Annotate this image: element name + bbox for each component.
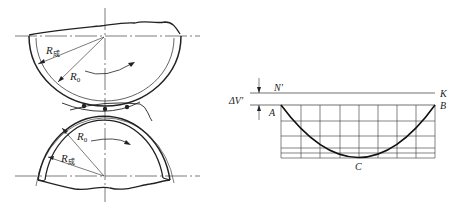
lower-inner-radius-label: R0 xyxy=(76,130,88,144)
lower-rotation-arrow xyxy=(91,139,128,143)
upper-inner-radius-label: R0 xyxy=(69,70,81,84)
rotation-arrowhead-icon xyxy=(124,140,131,145)
label-k: K xyxy=(439,88,448,99)
dimension-arrowhead-icon xyxy=(257,87,261,93)
diagram-canvas: R成 R0 R0 R成 xyxy=(0,0,452,210)
contact-point xyxy=(125,105,129,109)
upper-outer-radius-label: R成 xyxy=(45,44,60,58)
lower-roll-thick-arc xyxy=(38,116,170,180)
contact-point xyxy=(82,104,86,108)
deviation-curve xyxy=(281,105,435,158)
label-a: A xyxy=(268,107,276,118)
contact-point xyxy=(103,107,107,111)
rotation-arrowhead-icon xyxy=(128,62,135,67)
lower-roll xyxy=(15,116,200,189)
upper-rotation-arrow xyxy=(85,63,133,74)
upper-radius-inner-line xyxy=(58,37,104,82)
label-delta-v: ΔV′ xyxy=(228,95,244,106)
dimension-arrowhead-icon xyxy=(257,105,261,111)
lower-outer-radius-label: R成 xyxy=(60,152,75,166)
label-c: C xyxy=(355,161,362,172)
label-n-prime: N′ xyxy=(273,82,284,93)
upper-roll xyxy=(15,8,200,202)
arrowhead-icon xyxy=(38,59,45,64)
upper-roll-break-line xyxy=(29,22,180,35)
lower-roll-break-line xyxy=(38,180,170,189)
label-b: B xyxy=(440,100,446,111)
